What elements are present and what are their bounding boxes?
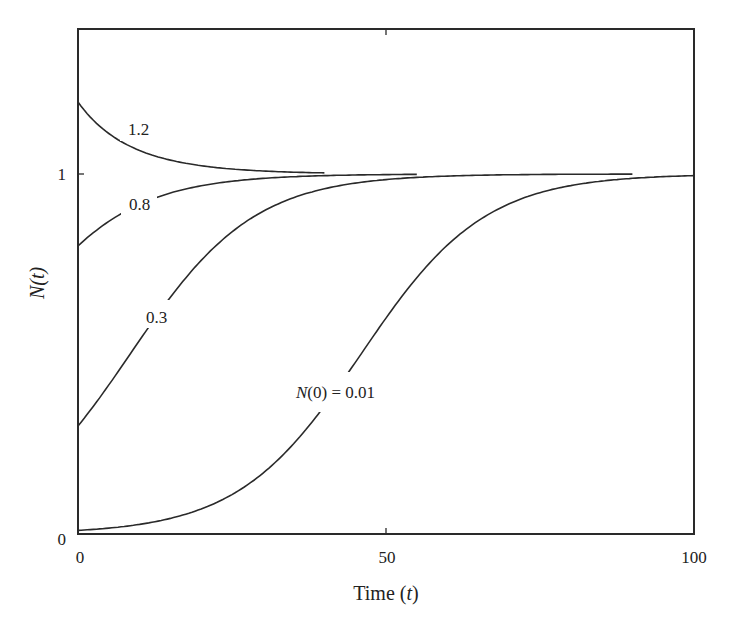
y-tick-label-0: 0 xyxy=(58,530,67,549)
x-axis-title-main: Time ( xyxy=(353,582,407,605)
curve-label-0.01: N(0) = 0.01 xyxy=(295,383,375,402)
x-tick-label-0: 0 xyxy=(76,548,85,567)
curve-n0-0.01 xyxy=(78,176,694,531)
curve-label-0.3: 0.3 xyxy=(146,308,167,327)
curve-n0-1.2 xyxy=(78,102,324,173)
curve-label-1.2: 1.2 xyxy=(128,120,149,139)
x-tick-label-100: 100 xyxy=(681,548,707,567)
x-axis-title-close: ) xyxy=(412,582,419,605)
y-axis-title-paren: (t) xyxy=(26,267,49,286)
curve-label-0.01-rest: (0) = 0.01 xyxy=(307,383,375,402)
logistic-growth-chart: 0 1 0 50 100 Time (t) N(t) 1.2 0.8 0.3 N… xyxy=(0,0,731,631)
curve-labels: 1.2 0.8 0.3 N(0) = 0.01 xyxy=(120,117,402,412)
x-tick-label-50: 50 xyxy=(379,548,396,567)
plot-frame xyxy=(78,29,694,534)
x-axis-title: Time (t) xyxy=(353,582,418,605)
y-axis-title: N(t) xyxy=(26,267,49,301)
y-tick-label-1: 1 xyxy=(58,165,67,184)
curve-label-0.8: 0.8 xyxy=(129,195,150,214)
